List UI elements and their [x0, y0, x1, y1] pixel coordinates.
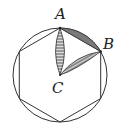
label-c: C: [52, 79, 64, 97]
segment-ab: [60, 28, 101, 52]
point-b: [100, 50, 102, 52]
point-c: [59, 74, 61, 76]
lens-ca: [56, 28, 65, 75]
point-a: [59, 27, 61, 29]
label-a: A: [53, 5, 66, 23]
label-b: B: [102, 35, 114, 53]
geometry-diagram: A B C: [0, 0, 122, 136]
lens-cb: [60, 52, 101, 76]
